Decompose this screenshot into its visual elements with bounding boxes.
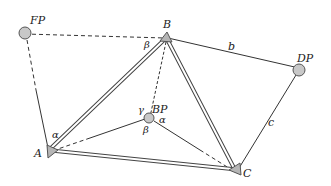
label-c: C bbox=[243, 167, 252, 180]
line-dp-c bbox=[236, 75, 296, 173]
label-side-c: c bbox=[268, 116, 274, 129]
label-angle-alpha-bp: α bbox=[159, 114, 166, 125]
label-angle-beta-b: β bbox=[143, 39, 150, 50]
label-angle-alpha-a: α bbox=[52, 129, 59, 140]
label-b: B bbox=[162, 18, 171, 31]
point-dp-marker bbox=[293, 64, 305, 76]
line-fp-a-dashed bbox=[27, 40, 36, 90]
line-bp-c bbox=[154, 121, 200, 150]
point-b-marker bbox=[160, 32, 172, 42]
baseline-b-c bbox=[168, 41, 234, 168]
line-fp-a bbox=[36, 90, 48, 148]
label-angle-gamma-bp: γ bbox=[138, 104, 144, 115]
line-bp-a bbox=[90, 119, 145, 138]
label-fp: FP bbox=[29, 14, 46, 27]
baseline-a-c bbox=[56, 151, 232, 169]
line-fp-b bbox=[25, 34, 165, 38]
label-dp: DP bbox=[296, 52, 314, 65]
point-fp-marker bbox=[19, 27, 31, 39]
label-side-b: b bbox=[228, 40, 235, 53]
label-angle-beta-bp: β bbox=[142, 124, 149, 135]
label-a: A bbox=[33, 147, 42, 160]
surveying-diagram: FP B DP BP A C b c α β γ α β bbox=[0, 0, 331, 186]
